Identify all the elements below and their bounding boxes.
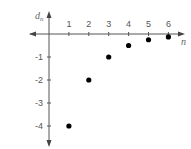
y-axis-arrow-up-icon xyxy=(47,11,52,18)
x-tick-label: 3 xyxy=(106,19,111,29)
data-point xyxy=(86,77,91,82)
data-point xyxy=(126,43,131,48)
scatter-chart: 123456 -1-2-3-4 dn n xyxy=(0,0,191,149)
y-tick-label: -3 xyxy=(35,98,43,108)
data-point xyxy=(66,123,71,128)
data-point xyxy=(106,54,111,59)
y-tick-label: -1 xyxy=(35,52,43,62)
x-tick-label: 6 xyxy=(166,19,171,29)
data-point xyxy=(166,34,171,39)
x-tick-label: 4 xyxy=(126,19,131,29)
x-tick-label: 1 xyxy=(66,19,71,29)
x-ticks: 123456 xyxy=(66,19,171,36)
y-axis-arrow-down-icon xyxy=(47,140,52,147)
axes xyxy=(30,14,183,145)
x-tick-label: 2 xyxy=(86,19,91,29)
data-points xyxy=(66,34,171,128)
y-axis-label: dn xyxy=(35,10,44,23)
y-tick-label: -2 xyxy=(35,75,43,85)
x-axis-arrow-left-icon xyxy=(29,32,36,37)
x-tick-label: 5 xyxy=(146,19,151,29)
data-point xyxy=(146,37,151,42)
x-axis-label: n xyxy=(181,36,186,47)
y-tick-label: -4 xyxy=(35,121,43,131)
